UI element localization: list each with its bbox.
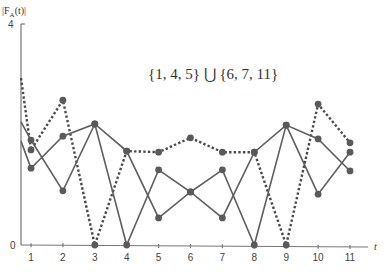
- data-point: [28, 147, 35, 154]
- x-tick-label: 6: [188, 252, 194, 263]
- data-point: [251, 149, 258, 156]
- x-tick-label: 8: [252, 252, 258, 263]
- series-line-solid-a: [21, 122, 350, 245]
- x-axis-label: t: [374, 241, 377, 252]
- data-point: [60, 187, 67, 194]
- data-point: [347, 149, 354, 156]
- x-tick-label: 4: [124, 252, 130, 263]
- x-tick-label: 2: [60, 252, 66, 263]
- data-point: [187, 189, 194, 196]
- data-point: [315, 101, 322, 108]
- data-point: [155, 166, 162, 173]
- series-line-solid-b: [21, 124, 350, 218]
- axes: [21, 24, 368, 247]
- data-point: [91, 242, 98, 249]
- data-point: [347, 168, 354, 175]
- data-point: [60, 133, 67, 140]
- y-tick-4: 4: [8, 19, 14, 30]
- data-point: [28, 137, 35, 144]
- data-point: [315, 191, 322, 198]
- x-tick-label: 11: [345, 252, 356, 263]
- data-point: [155, 149, 162, 156]
- data-point: [219, 166, 226, 173]
- x-tick-label: 5: [156, 252, 162, 263]
- data-point: [91, 121, 98, 128]
- series-line-dotted: [21, 78, 350, 245]
- data-point: [28, 165, 35, 172]
- data-point: [187, 134, 194, 141]
- y-axis-label: |FA(t)|: [2, 5, 26, 19]
- x-axis: [21, 245, 368, 247]
- x-tick-label: 9: [283, 252, 289, 263]
- x-tick-label: 1: [28, 252, 34, 263]
- set-annotation: {1, 4, 5} ⋃ {6, 7, 11}: [148, 66, 278, 82]
- x-tick-label: 10: [313, 252, 325, 263]
- data-point: [219, 215, 226, 222]
- series-group: [21, 78, 350, 245]
- chart: |FA(t)| 4 0 {1, 4, 5} ⋃ {6, 7, 11} 12345…: [0, 0, 388, 273]
- data-point: [251, 242, 258, 249]
- y-tick-0: 0: [10, 240, 16, 251]
- data-point: [283, 122, 290, 129]
- data-point: [155, 215, 162, 222]
- data-point: [283, 242, 290, 249]
- data-point: [60, 97, 67, 104]
- data-point: [315, 136, 322, 143]
- x-tick-label: 7: [220, 252, 226, 263]
- points-group: [28, 97, 354, 249]
- data-point: [123, 148, 130, 155]
- data-point: [347, 139, 354, 146]
- x-tick-label: 3: [92, 252, 98, 263]
- data-point: [219, 149, 226, 156]
- data-point: [123, 242, 130, 249]
